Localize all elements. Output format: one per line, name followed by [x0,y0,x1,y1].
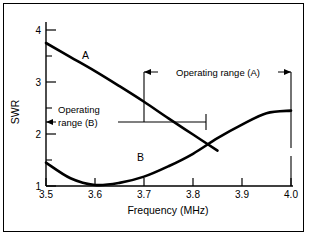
x-tick-label-4-0: 4.0 [284,189,298,200]
range-b-label-line1: Operating [58,104,100,115]
range-a-left-arrowhead [144,69,151,75]
series-label-b: B [137,151,144,163]
range-a-label: Operating range (A) [176,67,260,78]
curve-series-a [46,43,218,151]
range-a-right-arrowhead [284,69,291,75]
chart-page: 4 3 2 1 SWR 3.5 3.6 3.7 3.8 3.9 4.0 Freq… [0,0,309,237]
y-tick-label-2: 2 [35,129,41,140]
series-label-a: A [82,49,89,61]
y-tick-label-3: 3 [35,77,41,88]
y-axis-title: SWR [9,99,21,124]
x-tick-label-3-6: 3.6 [88,189,102,200]
x-tick-label-3-9: 3.9 [235,189,249,200]
y-tick-label-4: 4 [35,25,41,36]
x-tick-label-3-5: 3.5 [39,189,53,200]
range-b-left-arrowhead [46,119,53,125]
x-axis-tick-labels: 3.5 3.6 3.7 3.8 3.9 4.0 [39,189,298,200]
x-tick-label-3-8: 3.8 [186,189,200,200]
range-b-label-line2: range (B) [58,117,98,128]
x-tick-label-3-7: 3.7 [137,189,151,200]
y-axis-tick-labels: 4 3 2 1 [35,25,41,192]
swr-vs-frequency-chart: 4 3 2 1 SWR 3.5 3.6 3.7 3.8 3.9 4.0 Freq… [0,0,309,237]
x-axis-title: Frequency (MHz) [127,204,208,216]
